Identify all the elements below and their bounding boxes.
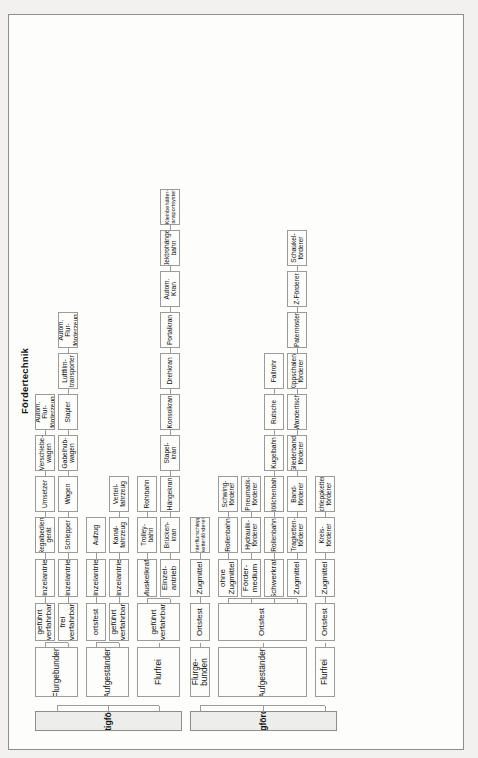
drive-frei-verfahrbar: Einzelantrieb <box>58 559 78 597</box>
group-flurfrei-s: Flurfrei <box>315 647 335 697</box>
connector-line <box>170 307 171 312</box>
drive-ortsfest-u: Einzelantrieb <box>86 559 106 597</box>
group-flurgebunden: Flurgebunden <box>35 647 78 697</box>
connector-line <box>263 706 264 711</box>
connector-line <box>200 706 201 711</box>
connector-line <box>159 643 160 647</box>
connector-line <box>96 642 119 643</box>
gefuehrt-verfahrbar-3-ea-leaf-7: Elektrohänge-bahn <box>160 230 180 266</box>
subgroup-ortsfest-s1: Ortsfest <box>190 603 210 641</box>
connector-line <box>45 471 46 476</box>
connector-line <box>45 512 46 517</box>
frei-verfahrbar-leaf-1: Wagen <box>58 476 78 512</box>
gefuehrt-verfahrbar-1-leaf-1: Umsetzer <box>35 476 55 512</box>
drive-ortsfest-s1: Zugmittel <box>190 559 210 597</box>
connector-line <box>297 553 298 559</box>
ortsfest-s2-2-leaf-2: Kugelbahn <box>264 435 284 471</box>
connector-line <box>96 597 97 603</box>
connector-line <box>170 266 171 271</box>
connector-line <box>251 512 252 517</box>
subgroup-ortsfest-s3: Ortsfest <box>315 603 335 641</box>
connector-line <box>68 471 69 476</box>
ortsfest-s2-3-leaf-1: Band-förderer <box>287 476 307 512</box>
connector-line <box>57 706 58 711</box>
connector-line <box>147 553 148 559</box>
connector-line <box>297 307 298 312</box>
drive-gefuehrt-verfahrbar-3-einzelantrieb: Einzel-antrieb <box>160 559 180 597</box>
subgroup-ortsfest-u: ortsfest <box>86 603 106 641</box>
connector-line <box>119 553 120 559</box>
gefuehrt-verfahrbar-2-leaf-1: Verteil-fahrzeug <box>109 476 129 512</box>
group-flurfrei-u: Flurfrei <box>137 647 180 697</box>
gefuehrt-verfahrbar-3-ea-leaf-6: Autom.Kran <box>160 271 180 307</box>
gefuehrt-verfahrbar-1-leaf-2: Verschiebe-wagen <box>35 435 55 471</box>
connector-line <box>68 553 69 559</box>
connector-line <box>251 599 252 603</box>
connector-line <box>325 597 326 603</box>
frei-verfahrbar-leaf-4: Luftfilm-transporter <box>58 353 78 389</box>
connector-line <box>325 643 326 647</box>
connector-line <box>119 512 120 517</box>
connector-line <box>170 348 171 353</box>
connector-line <box>325 553 326 559</box>
ortsfest-s2-3-leaf-5: Paternoster <box>287 312 307 348</box>
connector-line <box>251 553 252 559</box>
connector-line <box>228 512 229 517</box>
ortsfest-s2-2-leaf-0: Rollenbahn <box>264 517 284 553</box>
connector-line <box>325 706 326 711</box>
ortsfest-s1-leaf-0: Unterflurschlepp-kettenförderer <box>190 517 210 553</box>
frei-verfahrbar-leaf-3: Stapler <box>58 394 78 430</box>
gefuehrt-verfahrbar-3-mk-leaf-1: Rohrbahn <box>137 476 157 512</box>
group-flurgebunden-s: Flurge-bunden <box>190 647 210 697</box>
connector-line <box>297 266 298 271</box>
ortsfest-s2-3-leaf-3: Wandertisch <box>287 394 307 430</box>
ortsfest-u-leaf-0: Aufzug <box>86 517 106 553</box>
gefuehrt-verfahrbar-3-ea-leaf-5: Portalkran <box>160 312 180 348</box>
subgroup-ortsfest-s2: Ortsfest <box>218 603 307 641</box>
connector-line <box>297 471 298 476</box>
drive-gefuehrt-verfahrbar-1: Einzelantrieb <box>35 559 55 597</box>
connector-line <box>119 643 120 647</box>
ortsfest-s2-3-leaf-6: Z-Förderer <box>287 271 307 307</box>
ortsfest-s2-3-leaf-2: Gliederband-förderer <box>287 435 307 471</box>
ortsfest-s2-3-leaf-0: Tragketten-förderer <box>287 517 307 553</box>
connector-line <box>297 512 298 517</box>
connector-line <box>274 389 275 394</box>
connector-line <box>274 512 275 517</box>
drive-ortsfest-s3: Zugmittel <box>315 559 335 597</box>
subgroup-gefuehrt-verfahrbar-3: geführt verfahrbar <box>137 603 180 641</box>
connector-line <box>297 389 298 394</box>
diagram-root-title: Fördertechnik <box>17 23 32 739</box>
drive-ortsfest-s2-1: Förder-medium <box>241 559 261 597</box>
ortsfest-s2-0-leaf-1: Schwing-förderer <box>218 476 238 512</box>
diagram-frame: Fördertechnik Regalbedien-gerätUmsetzerV… <box>8 14 464 750</box>
connector-line <box>228 599 229 603</box>
gefuehrt-verfahrbar-2-leaf-0: Kanal-fahrzeug <box>109 517 129 553</box>
connector-line <box>170 430 171 435</box>
drive-ortsfest-s2-0: ohneZugmittel <box>218 559 238 597</box>
subgroup-gefuehrt-verfahrbar-1: geführtverfahrbar <box>35 603 55 641</box>
drive-ortsfest-s2-2: Schwerkraft <box>264 559 284 597</box>
gefuehrt-verfahrbar-3-ea-leaf-2: Stapel-kran <box>160 435 180 471</box>
connector-line <box>147 598 170 599</box>
ortsfest-s2-3-leaf-7: Schaukel-förderer <box>287 230 307 266</box>
connector-line <box>45 643 46 647</box>
ortsfest-s2-0-leaf-0: Rollenbahn <box>218 517 238 553</box>
connector-line <box>274 430 275 435</box>
ortsfest-s2-2-leaf-4: Fallrohr <box>264 353 284 389</box>
connector-line <box>45 597 46 603</box>
connector-line <box>45 430 46 435</box>
connector-line <box>274 471 275 476</box>
connector-line <box>68 430 69 435</box>
subgroup-gefuehrt-verfahrbar-2: geführtverfahrbar <box>109 603 129 641</box>
ortsfest-s3-leaf-0: Kreis-förderer <box>315 517 335 553</box>
group-aufgestaendert-s: Aufgeständert <box>218 647 307 697</box>
drive-gefuehrt-verfahrbar-2: Einzelantrieb <box>109 559 129 597</box>
branch-unstetigfoerderer: Unstetigförderer <box>35 711 182 731</box>
connector-line <box>170 389 171 394</box>
connector-line <box>119 597 120 603</box>
connector-line <box>170 225 171 230</box>
gefuehrt-verfahrbar-1-leaf-0: Regalbedien-gerät <box>35 517 55 553</box>
connector-line <box>170 553 171 559</box>
gefuehrt-verfahrbar-3-mk-leaf-0: Trolley-bahn <box>137 517 157 553</box>
